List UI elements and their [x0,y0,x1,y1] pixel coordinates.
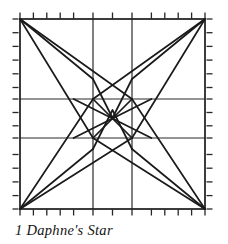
star-piecing-lines [20,19,205,209]
figure-caption: 1 Daphne's Star [15,221,113,240]
tick-marks-left [13,19,19,209]
figure-page: 1 Daphne's Star [0,0,228,244]
tick-marks-bottom [20,210,205,216]
block-outer-frame [20,19,205,209]
tick-marks-right [207,19,213,209]
tick-marks-top [20,13,205,19]
block-grid-lines [20,19,205,209]
daphnes-star-quilt-diagram [0,0,228,244]
chevron-bottom [93,110,132,149]
